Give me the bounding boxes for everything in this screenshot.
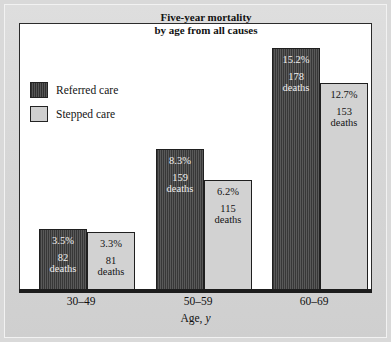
bar-value-pct: 12.7% xyxy=(330,89,357,100)
bar-value-count: 81 xyxy=(106,255,117,266)
bar-value-unit: deaths xyxy=(167,183,194,194)
bar-value-count: 153 xyxy=(336,106,352,117)
chart-title: Five-year mortality by age from all caus… xyxy=(111,11,301,36)
bar-referred-care-60-69: 15.2% 178 deaths xyxy=(272,48,320,290)
figure-container: Five-year mortality by age from all caus… xyxy=(0,0,391,342)
x-tick-label-50-59: 50–59 xyxy=(163,295,233,307)
x-axis-line xyxy=(19,289,372,293)
bar-value-pct: 3.5% xyxy=(52,235,74,246)
bar-value-unit: deaths xyxy=(98,266,125,277)
x-axis-label-italic: y xyxy=(205,312,210,324)
plot-area: Five-year mortality by age from all caus… xyxy=(19,23,372,290)
bar-value-pct: 6.2% xyxy=(217,186,239,197)
bar-value-pct: 15.2% xyxy=(282,54,309,65)
legend-item-referred-care: Referred care xyxy=(30,81,118,98)
bar-value-unit: deaths xyxy=(215,214,242,225)
chart-title-line-1: Five-year mortality xyxy=(111,11,301,24)
bar-value-unit: deaths xyxy=(283,82,310,93)
x-tick-text: 50–59 xyxy=(184,295,213,307)
bar-stepped-care-50-59: 6.2% 115 deaths xyxy=(204,180,252,290)
x-axis-label-main: Age, xyxy=(180,312,202,324)
bar-referred-care-30-49: 3.5% 82 deaths xyxy=(39,229,87,290)
x-tick-text: 30–49 xyxy=(67,295,96,307)
chart-title-line-2: by age from all causes xyxy=(111,24,301,37)
x-tick-label-60-69: 60–69 xyxy=(279,295,349,307)
legend-swatch-stepped-care-icon xyxy=(30,106,48,122)
bar-stepped-care-60-69: 12.7% 153 deaths xyxy=(320,83,368,290)
legend-swatch-referred-care-icon xyxy=(30,82,48,98)
legend-item-stepped-care: Stepped care xyxy=(30,105,118,122)
x-tick-text: 60–69 xyxy=(300,295,329,307)
bar-value-count: 159 xyxy=(172,172,188,183)
bar-stepped-care-30-49: 3.3% 81 deaths xyxy=(87,232,135,290)
bar-value-count: 115 xyxy=(220,203,235,214)
bar-value-unit: deaths xyxy=(331,117,358,128)
bar-value-count: 178 xyxy=(288,71,304,82)
bar-value-unit: deaths xyxy=(50,263,77,274)
legend-label-stepped-care: Stepped care xyxy=(56,108,115,120)
bar-value-pct: 3.3% xyxy=(100,238,122,249)
chart-legend: Referred care Stepped care xyxy=(30,81,118,129)
bar-value-count: 82 xyxy=(58,252,69,263)
bar-referred-care-50-59: 8.3% 159 deaths xyxy=(156,149,204,290)
x-axis-label: Age,y xyxy=(0,312,391,324)
x-tick-label-30-49: 30–49 xyxy=(46,295,116,307)
legend-label-referred-care: Referred care xyxy=(56,84,118,96)
bar-value-pct: 8.3% xyxy=(169,155,191,166)
